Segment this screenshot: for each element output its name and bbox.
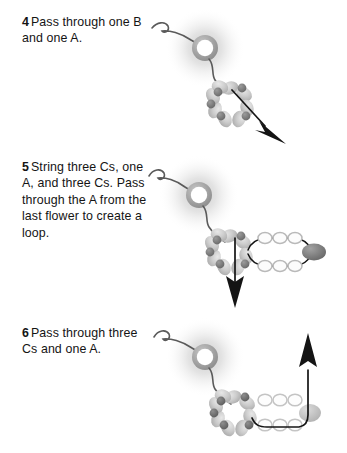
- arrow-up-head: [299, 333, 317, 367]
- seed-bead: [258, 232, 272, 243]
- flower-accent-bead: [241, 393, 250, 402]
- seed-bead: [288, 260, 302, 271]
- seed-bead: [258, 394, 272, 406]
- seed-bead: [273, 394, 287, 406]
- flower-accent-bead: [207, 100, 216, 109]
- step-4-number: 4: [22, 15, 29, 29]
- loop-end-bead: [299, 404, 321, 422]
- beading-instructions-page: 4Pass through one B and one A.: [0, 0, 347, 453]
- step-5-figure: [147, 150, 347, 315]
- flower-accent-bead: [238, 84, 247, 93]
- seed-bead: [288, 394, 302, 406]
- ring-bead-hole: [191, 187, 207, 203]
- flower-accent-bead: [245, 421, 254, 430]
- seed-bead: [288, 232, 302, 243]
- instruction-step-6: 6Pass through three Cs and one A.: [0, 315, 347, 453]
- seed-bead: [273, 260, 287, 271]
- seed-bead: [288, 419, 302, 431]
- seed-bead: [258, 260, 272, 271]
- step-6-text-block: 6Pass through three Cs and one A.: [22, 325, 152, 358]
- flower-accent-bead: [216, 260, 225, 269]
- flower-bead-cluster: [202, 226, 255, 277]
- loop-end-bead: [302, 244, 326, 261]
- ring-bead-hole: [197, 349, 213, 365]
- flower-accent-bead: [213, 236, 222, 245]
- step-4-figure: [147, 0, 347, 150]
- flower-accent-bead: [214, 88, 223, 97]
- step-6-number: 6: [22, 326, 29, 340]
- step-6-figure: [147, 315, 347, 453]
- step-5-number: 5: [22, 160, 29, 174]
- flower-accent-bead: [217, 112, 226, 121]
- flower-accent-bead: [210, 409, 219, 418]
- loop-seed-beads-top: [258, 394, 302, 406]
- flower-accent-bead: [241, 260, 250, 269]
- ring-bead-hole: [197, 40, 213, 56]
- instruction-step-5: 5String three Cs, one A, and three Cs. P…: [0, 150, 347, 315]
- step-5-instruction: String three Cs, one A, and three Cs. Pa…: [22, 160, 146, 240]
- step-4-text-block: 4Pass through one B and one A.: [22, 14, 152, 47]
- flower-accent-bead: [237, 232, 246, 241]
- arrow-down-right-head: [255, 121, 286, 144]
- seed-bead: [273, 419, 287, 431]
- instruction-step-4: 4Pass through one B and one A.: [0, 0, 347, 150]
- loop-seed-beads-bottom: [258, 260, 302, 271]
- flower-accent-bead: [217, 397, 226, 406]
- step-4-instruction: Pass through one B and one A.: [22, 15, 142, 45]
- loop-seed-beads-bottom: [258, 419, 302, 431]
- flower-accent-bead: [220, 421, 229, 430]
- step-5-text-block: 5String three Cs, one A, and three Cs. P…: [22, 159, 152, 241]
- flower-accent-bead: [242, 112, 251, 121]
- loop-seed-beads-top: [258, 232, 302, 243]
- seed-bead: [258, 419, 272, 431]
- step-6-instruction: Pass through three Cs and one A.: [22, 326, 138, 356]
- flower-accent-bead: [206, 248, 215, 257]
- seed-bead: [273, 232, 287, 243]
